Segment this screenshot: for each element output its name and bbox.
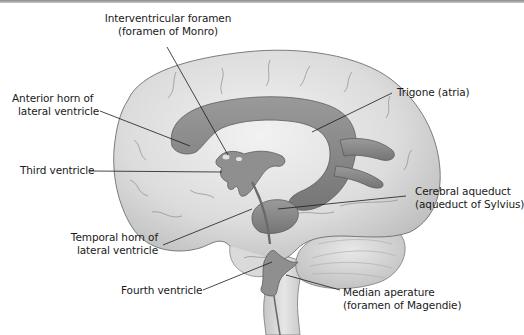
label-line: Fourth ventricle [121, 284, 202, 297]
label-line: Third ventricle [20, 164, 94, 177]
label-fourth-ventricle: Fourth ventricle [121, 284, 202, 297]
foramen-opening [223, 155, 230, 160]
label-line: lateral ventricle [12, 105, 99, 118]
label-line: Interventricular foramen [92, 12, 244, 25]
label-line: Temporal horn of [70, 231, 158, 244]
label-temporal-horn: Temporal horn of lateral ventricle [70, 231, 158, 257]
label-cerebral-aqueduct: Cerebral aqueduct (aqueduct of Sylvius) [415, 185, 524, 211]
label-interventricular-foramen: Interventricular foramen (foramen of Mon… [92, 12, 244, 38]
label-line: lateral ventricle [70, 244, 158, 257]
label-line: Median aperature [343, 286, 461, 299]
label-line: Trigone (atria) [397, 86, 470, 99]
massa-intermedia [236, 157, 242, 161]
label-line: Cerebral aqueduct [415, 185, 524, 198]
label-trigone: Trigone (atria) [397, 86, 470, 99]
label-median-aperture: Median aperature (foramen of Magendie) [343, 286, 461, 312]
label-line: (foramen of Monro) [92, 25, 244, 38]
label-line: Anterior horn of [12, 92, 99, 105]
label-line: (foramen of Magendie) [343, 299, 461, 312]
label-third-ventricle: Third ventricle [20, 164, 94, 177]
label-anterior-horn: Anterior horn of lateral ventricle [12, 92, 99, 118]
label-line: (aqueduct of Sylvius) [415, 198, 524, 211]
